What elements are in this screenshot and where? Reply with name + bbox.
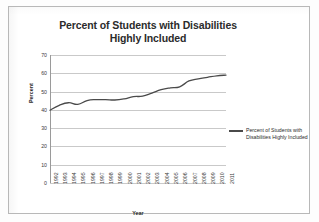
x-axis-tick-label: 2004: [164, 172, 170, 184]
chart-title-line-2: Highly Included: [37, 32, 259, 45]
x-axis-tick-label: 1999: [117, 172, 123, 184]
chart-title: Percent of Students with Disabilities Hi…: [37, 19, 259, 44]
x-axis-title: Year: [50, 210, 226, 216]
plot-area: 706050403020100: [50, 55, 226, 183]
x-axis-tick-label: 1998: [108, 172, 114, 184]
y-axis-tick-label: 40: [41, 107, 47, 113]
page-frame: Percent of Students with Disabilities Hi…: [8, 6, 310, 214]
x-axis-tick-label: 2011: [229, 173, 235, 184]
x-axis-tick-label: 1995: [80, 172, 86, 184]
x-axis-tick-labels: 1992199319941995199619971998199920002001…: [50, 184, 226, 208]
scanned-page: Percent of Students with Disabilities Hi…: [0, 0, 319, 222]
x-axis-tick-label: 1996: [90, 172, 96, 184]
x-axis-tick-label: 1997: [99, 172, 105, 184]
x-axis-tick-label: 2000: [127, 172, 133, 184]
legend-item-label: Percent of Students with Disabilities Hi…: [246, 127, 317, 141]
x-axis-tick-label: 2010: [219, 172, 225, 184]
x-axis-tick-label: 2001: [136, 172, 142, 184]
y-axis-tick-label: 60: [41, 70, 47, 76]
x-axis-tick-label: 2007: [192, 172, 198, 184]
chart-title-line-1: Percent of Students with Disabilities: [59, 19, 237, 31]
series-line-chart: [50, 55, 226, 183]
y-axis-tick-label: 10: [41, 162, 47, 168]
x-axis-tick-label: 2005: [173, 172, 179, 184]
x-axis-tick-label: 1992: [53, 172, 59, 184]
x-axis-tick-label: 2003: [154, 172, 160, 184]
series-line-path: [50, 75, 226, 110]
y-axis-tick-label: 30: [41, 125, 47, 131]
x-axis-tick-label: 2006: [182, 172, 188, 184]
x-axis-tick-label: 1994: [71, 172, 77, 184]
y-axis-tick-label: 50: [41, 89, 47, 95]
y-axis-tick-label: 0: [44, 180, 47, 186]
x-axis-tick-label: 1993: [62, 172, 68, 184]
x-axis-tick-label: 2002: [145, 172, 151, 184]
y-axis-tick-label: 70: [41, 52, 47, 58]
legend-line-swatch: [229, 130, 243, 132]
legend: Percent of Students with Disabilities Hi…: [229, 127, 317, 141]
y-axis-tick-label: 20: [41, 143, 47, 149]
x-axis-tick-label: 2008: [201, 172, 207, 184]
y-axis-title: Percent: [28, 83, 34, 103]
x-axis-tick-label: 2009: [210, 172, 216, 184]
